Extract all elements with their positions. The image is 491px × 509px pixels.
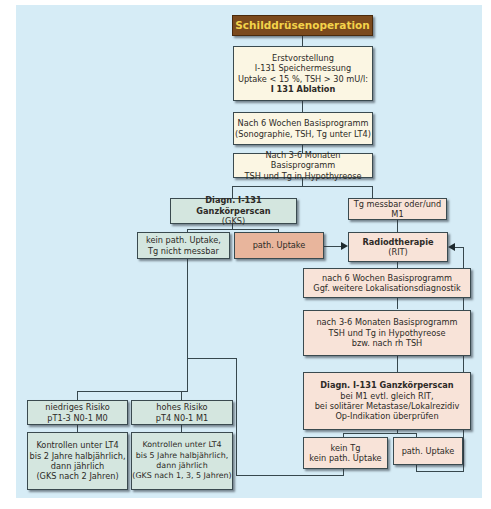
node-text: I 131 Ablation (271, 84, 336, 94)
node-text: Erstvorstellung (272, 53, 334, 63)
tg-messbar-node: Tg messbar oder/und M1 (348, 198, 447, 220)
node-text: path. Uptake (253, 240, 306, 250)
node-text: dann jährlich (156, 461, 207, 471)
node-text: bei solitärer Metastase/Lokalrezidiv (315, 401, 460, 411)
title-node: Schilddrüsenoperation (232, 15, 373, 36)
connector (236, 475, 344, 476)
node-text: Tg nicht messbar (148, 246, 219, 256)
connector (455, 247, 464, 248)
node-text: Diagn. I-131 Ganzkörperscan (171, 195, 296, 216)
node-text: (GKS nach 1, 3, 5 Jahren) (132, 471, 231, 481)
node-text: nach 3-6 Monaten Basisprogramm (316, 317, 457, 327)
connector (397, 356, 398, 372)
node-text: pT4 N0-1 M1 (156, 413, 208, 423)
node-text: (GKS nach 2 Jahren) (36, 471, 118, 481)
connector (187, 259, 188, 391)
kein-tg-node: kein Tg kein path. Uptake (303, 437, 388, 469)
node-text: (RIT) (388, 247, 408, 257)
connector (397, 220, 398, 232)
path-uptake-node: path. Uptake (234, 232, 324, 259)
connector (416, 471, 464, 472)
node-text: TSH und Tg in Hypothyreose (329, 328, 446, 338)
kontrollen-hoch-node: Kontrollen unter LT4 bis 5 Jahre halbjäh… (131, 432, 233, 490)
node-text: bzw. nach rh TSH (352, 338, 423, 348)
niedriges-risiko-node: niedriges Risiko pT1-3 N0-1 M0 (27, 400, 128, 425)
title-text: Schilddrüsenoperation (235, 20, 369, 30)
node-text: niedriges Risiko (45, 402, 109, 412)
node-text: kein path. Uptake, (146, 235, 221, 245)
node-text: Uptake < 15 %, TSH > 30 mU/l: (238, 74, 368, 84)
connector (302, 101, 303, 112)
node-text: Radiodtherapie (362, 237, 433, 247)
connector (236, 358, 237, 476)
node-text: kein path. Uptake (309, 453, 381, 463)
node-text: (Sonographie, TSH, Tg unter LT4) (235, 129, 371, 139)
connector (181, 391, 182, 400)
rit-6-wochen-node: nach 6 Wochen Basisprogramm Ggf. weitere… (303, 268, 471, 298)
connector (343, 433, 417, 434)
node-text: Nach 3-6 Monaten Basisprogramm (234, 150, 372, 171)
arrow-left-icon (448, 243, 455, 251)
connector (181, 425, 182, 432)
connector (77, 391, 78, 400)
connector (77, 425, 78, 432)
connector (397, 298, 398, 309)
connector (232, 186, 373, 187)
hohes-risiko-node: hohes Risiko pT4 N0-1 M1 (131, 400, 233, 425)
node-text: Kontrollen unter LT4 (142, 440, 221, 450)
basis-6-wochen-node: Nach 6 Wochen Basisprogramm (Sonographie… (233, 112, 373, 145)
node-text: kein Tg (331, 443, 361, 453)
node-text: Kontrollen unter LT4 (36, 440, 118, 450)
connector (77, 391, 188, 392)
connector (187, 229, 279, 230)
connector (324, 246, 341, 247)
rit-gks-node: Diagn. I-131 Ganzkörperscan bei M1 evtl.… (303, 372, 471, 430)
node-text: Op-Indikation überprüfen (335, 411, 438, 421)
path-uptake-2-node: path. Uptake (393, 437, 463, 465)
basis-3-6-monate-node: Nach 3-6 Monaten Basisprogramm TSH und T… (233, 153, 373, 178)
node-text: bei M1 evtl. gleich RIT, (340, 391, 433, 401)
connector (302, 36, 303, 46)
kontrollen-niedrig-node: Kontrollen unter LT4 bis 2 Jahre halbjäh… (27, 432, 128, 490)
node-text: Ggf. weitere Lokalisationsdiagnostik (313, 283, 460, 293)
node-text: I-131 Speichermessung (255, 63, 351, 73)
connector (187, 358, 237, 359)
node-text: path. Uptake (402, 446, 455, 456)
node-text: hohes Risiko (156, 402, 207, 412)
node-text: (GKS) (222, 216, 245, 226)
connector (372, 186, 373, 198)
erstvorstellung-node: Erstvorstellung I-131 Speichermessung Up… (233, 46, 373, 101)
node-text: Nach 6 Wochen Basisprogramm (238, 118, 369, 128)
node-text: pT1-3 N0-1 M0 (47, 413, 108, 423)
node-text: bis 5 Jahre halbjährlich, (136, 451, 229, 461)
node-text: Tg messbar oder/und M1 (349, 199, 446, 220)
node-text: bis 2 Jahre halbjährlich, (30, 451, 126, 461)
gks-node: Diagn. I-131 Ganzkörperscan (GKS) (170, 198, 297, 224)
radiotherapie-node: Radiodtherapie (RIT) (348, 232, 448, 262)
rit-3-6-monate-node: nach 3-6 Monaten Basisprogramm TSH und T… (303, 310, 471, 356)
node-text: nach 6 Wochen Basisprogramm (322, 273, 452, 283)
node-text: dann jährlich (51, 461, 104, 471)
arrow-right-icon (341, 242, 348, 250)
node-text: Diagn. I-131 Ganzkörperscan (320, 380, 453, 390)
node-text: TSH und Tg in Hypothyreose (245, 171, 362, 181)
kein-path-uptake-node: kein path. Uptake, Tg nicht messbar (137, 232, 230, 259)
